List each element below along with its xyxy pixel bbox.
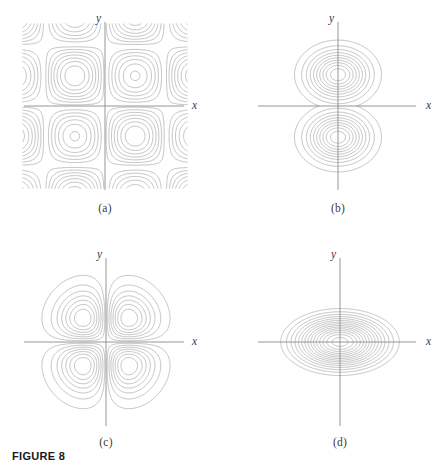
contour-c-level-5 xyxy=(74,309,91,326)
contour-c-level-5 xyxy=(121,309,138,326)
contour-a-level-12 xyxy=(69,187,81,189)
contour-a-level-11 xyxy=(22,124,28,149)
contour-a-level-6 xyxy=(106,107,164,165)
y-axis-label: y xyxy=(328,12,335,25)
contour-a-level-3 xyxy=(22,178,33,189)
contour-plot-b: xy xyxy=(224,0,448,234)
contour-a-level-2 xyxy=(119,60,152,93)
contour-a-level-6 xyxy=(106,23,164,44)
contour-a-level-3 xyxy=(115,56,155,96)
panel-label-b: (b) xyxy=(226,202,448,214)
contour-b-level-6 xyxy=(310,53,338,97)
contour-plot-d: xy xyxy=(224,234,448,468)
contour-c-level-9 xyxy=(111,347,155,393)
contour-a-level-12 xyxy=(125,126,145,146)
contour-b-level-0 xyxy=(338,69,345,81)
contour-a-level-5 xyxy=(48,110,101,163)
contour-c-level-9 xyxy=(111,291,155,337)
contour-c-level-7 xyxy=(66,352,97,384)
x-axis-label: x xyxy=(425,99,432,111)
contour-a-level-11 xyxy=(181,64,187,89)
contour-a-level-1 xyxy=(123,64,147,88)
contour-b-level-1 xyxy=(326,128,338,147)
contour-panel-c: xy(c) xyxy=(0,234,224,468)
contour-b-level-3 xyxy=(338,123,356,152)
contour-a-level-4 xyxy=(113,173,158,188)
contour-b-level-7 xyxy=(338,50,370,100)
contour-plot-a: xy xyxy=(0,0,224,234)
contour-a-level-1 xyxy=(22,67,26,85)
y-axis-label: y xyxy=(330,248,337,261)
contour-b-level-3 xyxy=(338,60,356,89)
contour-b-level-0 xyxy=(331,69,338,81)
contour-a-level-10 xyxy=(179,180,188,189)
contour-b-level-3 xyxy=(320,60,338,89)
panel-label-c: (c) xyxy=(0,436,218,448)
contour-a-level-2 xyxy=(59,120,92,153)
contour-a-level-4 xyxy=(172,114,187,159)
contour-a-level-8 xyxy=(22,113,38,159)
contour-a-level-1 xyxy=(186,23,187,24)
contour-a-level-3 xyxy=(56,23,94,35)
contour-a-level-5 xyxy=(109,49,162,102)
contour-b-level-0 xyxy=(338,131,345,143)
contour-a-level-3 xyxy=(55,116,95,156)
contour-c-level-5 xyxy=(74,358,91,375)
contour-panel-b: xy(b) xyxy=(224,0,448,234)
panel-label-d: (d) xyxy=(228,436,448,448)
contour-a-level-3 xyxy=(175,117,187,155)
contour-c-level-7 xyxy=(66,300,97,332)
figure-caption: FIGURE 8 xyxy=(12,450,65,462)
contour-b-level-7 xyxy=(306,112,338,162)
contour-c-level-9 xyxy=(57,291,101,337)
y-axis-label: y xyxy=(95,12,102,25)
contour-c-level-9 xyxy=(57,347,101,393)
contour-panel-d: xy(d) xyxy=(224,234,448,468)
contour-b-level-7 xyxy=(338,112,370,162)
contour-b-level-3 xyxy=(320,123,338,152)
contour-a-level-12 xyxy=(65,66,85,86)
contour-plot-c: xy xyxy=(0,234,224,468)
contour-a-level-8 xyxy=(112,23,158,39)
contour-a-level-1 xyxy=(63,124,87,148)
contour-c-level-7 xyxy=(115,300,146,332)
contour-c-level-5 xyxy=(121,358,138,375)
contour-b-level-1 xyxy=(338,128,350,147)
contour-a-level-10 xyxy=(22,23,31,32)
contour-a-level-4 xyxy=(22,53,37,98)
contour-a-level-1 xyxy=(126,185,144,189)
contour-a-level-9 xyxy=(176,177,188,189)
contour-a-level-7 xyxy=(169,170,187,188)
contour-a-level-6 xyxy=(46,167,104,188)
contour-a-level-6 xyxy=(46,47,104,105)
contour-c-level-7 xyxy=(115,352,146,384)
contour-a-level-1 xyxy=(66,23,84,27)
contour-a-level-10 xyxy=(57,58,93,94)
contour-panel-a: xy(a) xyxy=(0,0,224,234)
x-axis-label: x xyxy=(425,335,432,347)
contour-a-level-3 xyxy=(177,23,188,34)
contour-a-level-9 xyxy=(22,23,34,35)
contour-a-level-8 xyxy=(52,173,98,189)
contour-b-level-1 xyxy=(338,65,350,84)
contour-a-level-11 xyxy=(123,23,148,29)
figure-8-container: xy(a)xy(b)xy(c)xy(d) xyxy=(0,0,448,468)
contour-b-level-6 xyxy=(338,53,366,97)
y-axis-label: y xyxy=(96,248,103,261)
contour-a-level-11 xyxy=(63,182,88,188)
contour-a-level-4 xyxy=(52,23,97,38)
contour-b-level-6 xyxy=(310,115,338,159)
panel-label-a: (a) xyxy=(0,202,217,214)
contour-a-level-11 xyxy=(183,184,187,188)
contour-a-level-3 xyxy=(22,57,34,95)
contour-a-level-1 xyxy=(22,187,23,188)
contour-a-level-0 xyxy=(130,71,139,80)
contour-b-level-6 xyxy=(338,115,366,159)
x-axis-label: x xyxy=(191,99,198,111)
contour-b-level-7 xyxy=(306,50,338,100)
x-axis-label: x xyxy=(191,335,198,347)
contour-a-level-0 xyxy=(70,131,79,140)
contour-a-level-2 xyxy=(181,23,188,30)
contour-a-level-12 xyxy=(129,23,141,25)
contour-a-level-1 xyxy=(184,127,188,145)
